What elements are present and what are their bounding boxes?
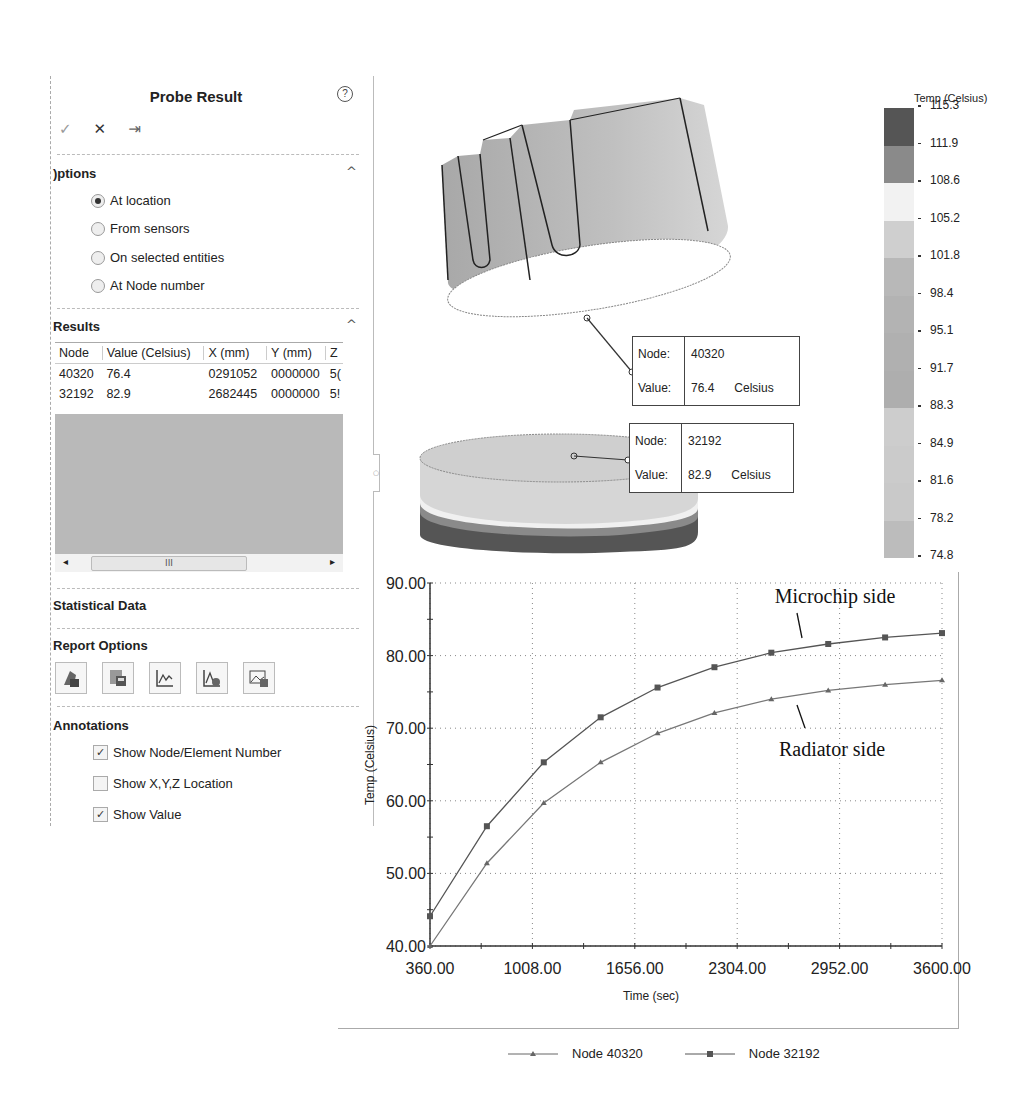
annotations-header[interactable]: Annotations (53, 718, 129, 733)
chart-frame (338, 572, 959, 1029)
panel-title: Probe Result (51, 88, 341, 105)
statistical-data-header[interactable]: Statistical Data (53, 598, 146, 613)
legend-tick-label: 78.2 (930, 511, 960, 549)
scroll-right-icon[interactable]: ▸ (330, 556, 335, 567)
cell-x: 2682445 (205, 387, 268, 401)
save-plot-icon (201, 667, 223, 689)
checkbox[interactable]: ✓ (93, 745, 108, 760)
checkbox-show-value[interactable]: ✓ Show Value (93, 807, 181, 822)
scroll-left-icon[interactable]: ◂ (63, 556, 68, 567)
legend-color-band (884, 258, 914, 296)
probe-value: 76.4 (685, 381, 714, 395)
legend-color-band (884, 183, 914, 221)
probe-value-row: Value: 76.4 Celsius (633, 371, 799, 405)
help-icon[interactable]: ? (337, 86, 353, 102)
probe-value: 82.9 (682, 468, 711, 482)
heatsink-model (442, 98, 735, 375)
radio-label: On selected entities (110, 250, 224, 265)
divider (57, 154, 359, 155)
probe-node-key: Node: (633, 337, 685, 371)
probe-value-key: Value: (630, 458, 682, 492)
divider (57, 588, 359, 589)
radio-label: At Node number (110, 278, 205, 293)
radio-button[interactable] (91, 251, 105, 265)
radio-on-selected-entities[interactable]: On selected entities (91, 250, 224, 265)
export-csv-button[interactable] (102, 662, 134, 694)
cell-y: 0000000 (267, 387, 326, 401)
results-table: Node Value (Celsius) X (mm) Y (mm) Z 403… (55, 342, 343, 404)
radio-button[interactable] (91, 222, 105, 236)
horizontal-scrollbar[interactable]: ◂ III ▸ (55, 554, 343, 572)
column-header-node[interactable]: Node (55, 346, 102, 360)
save-image-button[interactable] (243, 662, 275, 694)
legend-tick-label: 105.2 (930, 211, 960, 249)
legend-item-node-40320: Node 40320 (508, 1046, 643, 1061)
panel-splitter-handle[interactable]: ○ (373, 454, 380, 492)
column-header-x[interactable]: X (mm) (203, 346, 266, 360)
legend-tick-label: 91.7 (930, 361, 960, 399)
square-marker-line-icon (685, 1049, 735, 1059)
cell-y: 0000000 (267, 367, 326, 381)
checkbox-label: Show Node/Element Number (113, 745, 281, 760)
legend-color-band (884, 333, 914, 371)
save-icon (60, 667, 82, 689)
results-header[interactable]: Results (53, 319, 100, 334)
checkbox[interactable]: ✓ (93, 807, 108, 822)
legend-color-band (884, 483, 914, 521)
radio-button[interactable] (91, 194, 105, 208)
color-legend-labels: 115.3111.9108.6105.2101.898.495.191.788.… (930, 98, 960, 586)
cancel-icon[interactable]: ✕ (94, 120, 107, 138)
probe-result-panel: Probe Result ? ✓ ✕ ⇥ )ptions ^ At locati… (50, 76, 374, 826)
legend-color-band (884, 408, 914, 446)
report-options-header[interactable]: Report Options (53, 638, 148, 653)
ok-icon[interactable]: ✓ (59, 120, 72, 138)
legend-color-band (884, 221, 914, 259)
plot-button[interactable] (149, 662, 181, 694)
radio-button[interactable] (91, 279, 105, 293)
triangle-marker-line-icon (508, 1049, 558, 1059)
probe-label-node-32192[interactable]: Node: 32192 Value: 82.9 Celsius (629, 423, 794, 493)
cell-node: 32192 (55, 387, 102, 401)
probe-node-row: Node: 32192 (630, 424, 793, 458)
panel-toolbar: ✓ ✕ ⇥ (59, 120, 141, 138)
model-render (380, 80, 860, 570)
legend-color-band (884, 146, 914, 184)
plot-icon (154, 667, 176, 689)
column-header-y[interactable]: Y (mm) (266, 346, 325, 360)
divider (57, 706, 359, 707)
cell-x: 0291052 (205, 367, 268, 381)
legend-tick-label: 115.3 (930, 98, 960, 136)
table-row[interactable]: 40320 76.4 0291052 0000000 5( (55, 364, 343, 384)
probe-label-node-40320[interactable]: Node: 40320 Value: 76.4 Celsius (632, 336, 800, 406)
radio-label: At location (110, 193, 171, 208)
cell-value: 82.9 (102, 387, 204, 401)
divider (57, 628, 359, 629)
legend-label: Node 40320 (572, 1046, 643, 1061)
probe-node-value: 32192 (682, 434, 721, 448)
checkbox-label: Show Value (113, 807, 181, 822)
probe-value-row: Value: 82.9 Celsius (630, 458, 793, 492)
collapse-options-icon[interactable]: ^ (346, 164, 357, 179)
checkbox-show-xyz-location[interactable]: Show X,Y,Z Location (93, 776, 233, 791)
table-row[interactable]: 32192 82.9 2682445 0000000 5! (55, 384, 343, 404)
collapse-results-icon[interactable]: ^ (346, 317, 357, 332)
checkbox[interactable] (93, 776, 108, 791)
probe-value-key: Value: (633, 371, 685, 405)
save-plot-button[interactable] (196, 662, 228, 694)
save-report-button[interactable] (55, 662, 87, 694)
checkbox-show-node-number[interactable]: ✓ Show Node/Element Number (93, 745, 281, 760)
column-header-value[interactable]: Value (Celsius) (102, 346, 204, 360)
probe-node-value: 40320 (685, 347, 724, 361)
radio-at-node-number[interactable]: At Node number (91, 278, 205, 293)
divider (57, 308, 359, 309)
chart-legend: Node 40320 Node 32192 (508, 1046, 820, 1061)
options-header[interactable]: )ptions (53, 166, 96, 181)
radio-from-sensors[interactable]: From sensors (91, 221, 189, 236)
legend-color-band (884, 296, 914, 334)
radio-at-location[interactable]: At location (91, 193, 171, 208)
model-viewport[interactable]: Node: 40320 Value: 76.4 Celsius Node: 32… (380, 80, 860, 570)
column-header-z[interactable]: Z (325, 346, 343, 360)
pin-icon[interactable]: ⇥ (128, 120, 141, 138)
scroll-thumb[interactable]: III (91, 556, 247, 571)
probe-node-row: Node: 40320 (633, 337, 799, 371)
